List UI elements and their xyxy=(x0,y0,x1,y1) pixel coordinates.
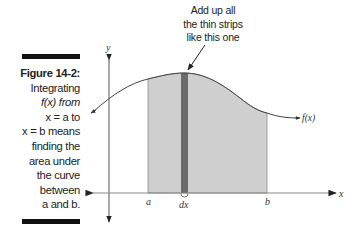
upper-bound-label: b xyxy=(265,196,270,207)
y-axis-label: y xyxy=(105,42,111,53)
area-under-curve xyxy=(148,73,267,193)
lower-bound-label: a xyxy=(146,196,151,207)
strip-width-label: dx xyxy=(179,199,189,210)
curve-label: f(x) xyxy=(302,113,315,124)
integral-diagram: y x a b dx f(x) xyxy=(0,0,359,236)
dx-brace xyxy=(181,194,188,197)
x-axis-label: x xyxy=(338,188,344,199)
thin-strip xyxy=(181,73,188,193)
curve-left-arrow-icon xyxy=(91,110,96,113)
annotation-arrow-icon xyxy=(188,45,205,70)
